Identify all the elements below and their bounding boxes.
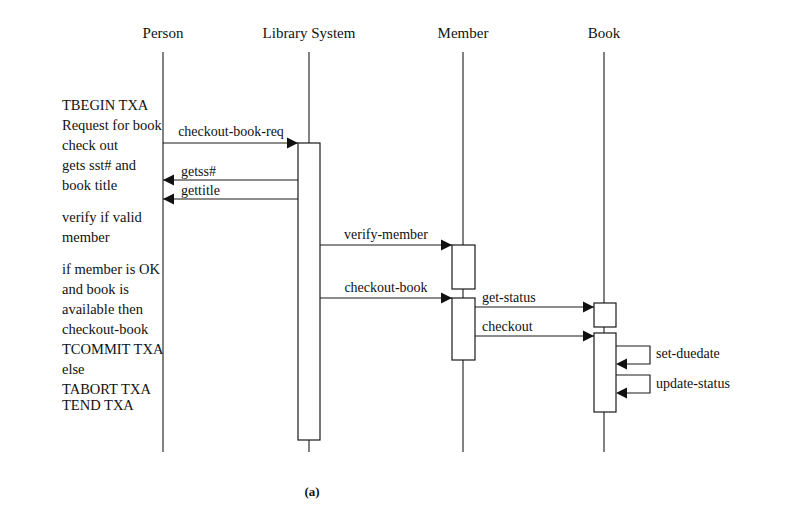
message-verify-member: verify-member bbox=[320, 227, 452, 251]
message-label-checkout-book-req: checkout-book-req bbox=[178, 124, 284, 139]
message-label-get-status: get-status bbox=[482, 290, 536, 305]
self-message-arrowhead-update-status bbox=[616, 388, 627, 399]
self-message-arrowhead-set-duedate bbox=[616, 359, 627, 370]
lifeline-label-book: Book bbox=[588, 25, 621, 41]
member-activation-checkout bbox=[452, 298, 475, 360]
note-line: gets sst# and bbox=[62, 157, 137, 173]
note-line: TABORT TXA bbox=[62, 381, 151, 397]
message-arrowhead-checkout-book-req bbox=[287, 138, 298, 149]
message-gettitle: gettitle bbox=[163, 183, 298, 205]
lifeline-member: Member bbox=[438, 25, 489, 452]
lifeline-label-member: Member bbox=[438, 25, 489, 41]
note-line: Request for book bbox=[62, 117, 163, 133]
lifeline-label-library: Library System bbox=[263, 25, 356, 41]
note-line: book title bbox=[62, 177, 117, 193]
self-messages-group: set-duedateupdate-status bbox=[616, 346, 730, 399]
lifeline-label-person: Person bbox=[143, 25, 184, 41]
message-label-getss: getss# bbox=[181, 164, 216, 179]
message-arrowhead-checkout-book bbox=[441, 293, 452, 304]
sequence-diagram-figure: PersonLibrary SystemMemberBook checkout-… bbox=[0, 0, 787, 524]
book-activation-getstatus bbox=[594, 303, 616, 327]
self-message-label-update-status: update-status bbox=[656, 376, 730, 391]
note-line: if member is OK bbox=[62, 261, 160, 277]
note-line: member bbox=[62, 229, 110, 245]
member-activation-verify bbox=[452, 245, 475, 289]
messages-group: checkout-book-reqgetss#gettitleverify-me… bbox=[163, 124, 594, 342]
annotation-notes-group: TBEGIN TXARequest for bookcheck outgets … bbox=[62, 97, 164, 413]
message-get-status: get-status bbox=[475, 290, 594, 313]
message-arrowhead-get-status bbox=[583, 302, 594, 313]
message-arrowhead-getss bbox=[163, 175, 174, 186]
message-arrowhead-gettitle bbox=[163, 194, 174, 205]
note-line: TEND TXA bbox=[62, 397, 134, 413]
message-checkout-book-req: checkout-book-req bbox=[163, 124, 298, 149]
note-line: available then bbox=[62, 301, 144, 317]
message-arrowhead-verify-member bbox=[441, 240, 452, 251]
message-label-checkout: checkout bbox=[482, 319, 533, 334]
self-message-path-set-duedate bbox=[616, 346, 650, 364]
message-arrowhead-checkout bbox=[583, 331, 594, 342]
sequence-diagram-canvas: PersonLibrary SystemMemberBook checkout-… bbox=[0, 0, 787, 524]
message-checkout: checkout bbox=[475, 319, 594, 342]
message-checkout-book: checkout-book bbox=[320, 280, 452, 304]
note-line: and book is bbox=[62, 281, 129, 297]
note-line: checkout-book bbox=[62, 321, 149, 337]
self-message-update-status: update-status bbox=[616, 375, 730, 399]
note-line: TCOMMIT TXA bbox=[62, 341, 164, 357]
book-activation-checkout bbox=[594, 333, 616, 412]
note-line: verify if valid bbox=[62, 209, 142, 225]
self-message-set-duedate: set-duedate bbox=[616, 346, 720, 370]
library-activation bbox=[298, 143, 320, 440]
note-line: check out bbox=[62, 137, 118, 153]
message-label-verify-member: verify-member bbox=[344, 227, 428, 242]
message-label-gettitle: gettitle bbox=[181, 183, 220, 198]
figure-caption: (a) bbox=[304, 484, 319, 499]
self-message-label-set-duedate: set-duedate bbox=[656, 346, 720, 361]
message-label-checkout-book: checkout-book bbox=[344, 280, 427, 295]
note-line: else bbox=[62, 361, 85, 377]
note-line: TBEGIN TXA bbox=[62, 97, 149, 113]
self-message-path-update-status bbox=[616, 375, 650, 393]
